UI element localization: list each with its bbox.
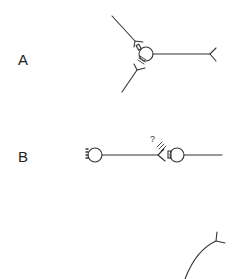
terminal-fork-c bbox=[216, 232, 225, 243]
cell-body-b-left bbox=[88, 148, 102, 162]
terminal-fork-right-a bbox=[210, 48, 216, 61]
upper-branch-a bbox=[112, 16, 135, 41]
diagram-canvas: ? bbox=[0, 0, 234, 279]
lower-terminal-a bbox=[134, 64, 145, 70]
cell-body-b-right bbox=[170, 148, 184, 162]
receptor-upper-a bbox=[136, 44, 141, 50]
question-mark-annotation: ? bbox=[150, 134, 155, 144]
hash-marks-b bbox=[157, 142, 166, 151]
lower-branch-a bbox=[122, 70, 137, 92]
panel-b-diagram bbox=[86, 142, 222, 162]
curved-axon-c bbox=[185, 241, 216, 279]
panel-c-diagram bbox=[185, 232, 225, 279]
panel-a-diagram bbox=[112, 16, 216, 92]
